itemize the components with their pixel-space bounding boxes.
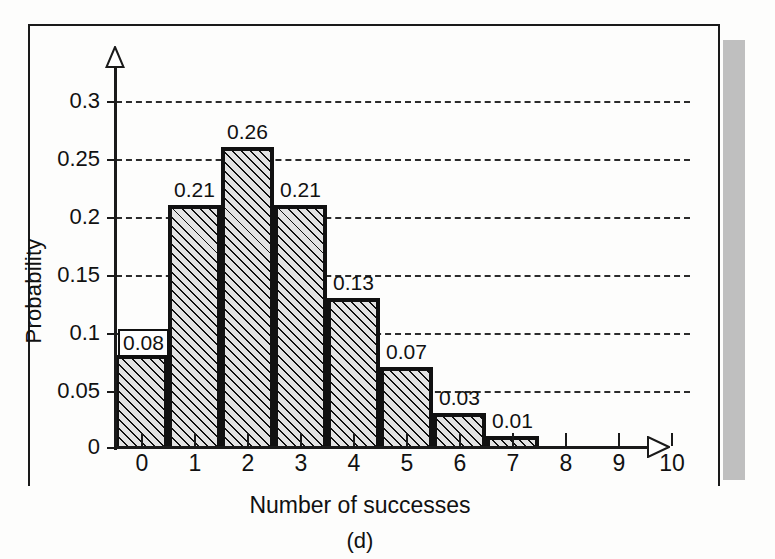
- figure-page: 0.08 0.21 0.26 0.21 0.13 0.07 0.03 0.01 …: [0, 0, 775, 559]
- figure-frame: [28, 24, 720, 486]
- page-shadow-strip: [723, 40, 745, 480]
- x-axis-title: Number of successes: [0, 492, 720, 519]
- y-axis-title: Probability: [21, 211, 47, 371]
- figure-caption: (d): [0, 528, 720, 554]
